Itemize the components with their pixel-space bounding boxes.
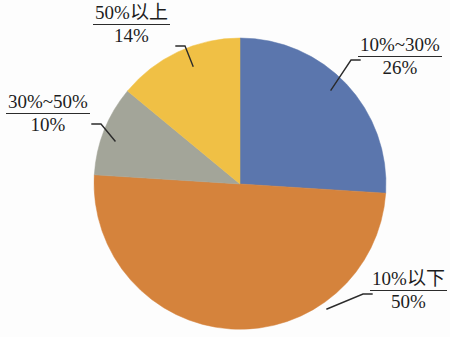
callout-10-30: 10%~30% 26% <box>358 35 442 78</box>
callout-50-plus-name: 50%以上 <box>93 3 170 24</box>
callout-10-under: 10%以下 50% <box>370 269 447 312</box>
pie-chart: 50%以上 14% 30%~50% 10% 10%~30% 26% 10%以下 … <box>0 0 450 337</box>
callout-30-50-value: 10% <box>6 114 90 135</box>
callout-10-under-value: 50% <box>370 291 447 312</box>
callout-50-plus-value: 14% <box>93 25 170 46</box>
callout-50-plus: 50%以上 14% <box>93 3 170 46</box>
callout-10-under-name: 10%以下 <box>370 269 447 290</box>
pie-slices <box>94 38 386 329</box>
callout-30-50: 30%~50% 10% <box>6 92 90 135</box>
callout-10-30-value: 26% <box>358 57 442 78</box>
callout-10-30-name: 10%~30% <box>358 35 442 56</box>
callout-30-50-name: 30%~50% <box>6 92 90 113</box>
leader-line-10-under <box>327 294 372 309</box>
pie-slice-10-under[interactable] <box>94 175 386 329</box>
